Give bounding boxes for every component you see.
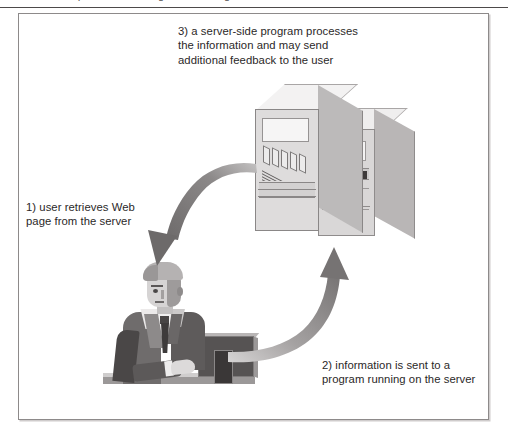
caption-step-1: 1) user retrieves Web page from the serv… — [26, 200, 166, 229]
clipped-page-header: Chapter 1 • Web Page Processing — [0, 0, 508, 10]
server-front-vents — [262, 167, 310, 181]
ear — [177, 287, 183, 296]
necktie-knot — [160, 316, 169, 324]
clipped-header-text: Chapter 1 • Web Page Processing — [58, 0, 231, 1]
drive-slot — [272, 147, 279, 168]
drive-slot — [263, 145, 270, 166]
necktie — [161, 323, 169, 353]
server-front-side-face — [318, 85, 363, 233]
caption-step-2: 2) information is sent to a program runn… — [322, 358, 492, 387]
nose — [161, 290, 164, 299]
server-front-line — [258, 196, 316, 197]
mouth — [155, 301, 164, 303]
user-illustration — [103, 262, 255, 384]
eye — [153, 289, 158, 293]
server-group — [255, 84, 420, 239]
computer-tower — [214, 350, 233, 384]
page-horizontal-rule — [0, 7, 508, 8]
caption-step-3: 3) a server-side program processes the i… — [178, 24, 383, 67]
server-front-line — [258, 189, 316, 190]
server-front-drive-bay — [262, 118, 309, 142]
eyebrow — [151, 285, 163, 287]
server-rear-side-face — [374, 109, 415, 239]
server-tower-front — [255, 84, 363, 231]
